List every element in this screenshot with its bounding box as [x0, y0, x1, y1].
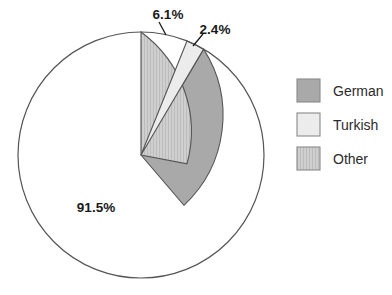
legend: German Turkish Other: [297, 79, 384, 170]
legend-item-other[interactable]: Other: [297, 147, 368, 170]
slice-label-turkish: 2.4%: [200, 22, 231, 37]
leader-lines-group: [159, 22, 203, 46]
legend-label-other: Other: [333, 151, 368, 167]
legend-swatch-turkish: [297, 113, 320, 136]
pie-slices-group: [18, 32, 264, 278]
legend-item-turkish[interactable]: Turkish: [297, 113, 378, 136]
legend-item-german[interactable]: German: [297, 79, 384, 102]
pie-chart-figure: 6.1% 2.4% 91.5% German Turkish Other: [0, 0, 392, 295]
legend-label-turkish: Turkish: [333, 117, 378, 133]
legend-label-german: German: [333, 83, 384, 99]
pie-chart-svg: 6.1% 2.4% 91.5% German Turkish Other: [0, 0, 392, 295]
slice-label-other: 6.1%: [153, 7, 184, 22]
legend-swatch-german: [297, 79, 320, 102]
legend-swatch-other: [297, 147, 320, 170]
slice-label-german: 91.5%: [77, 200, 115, 215]
